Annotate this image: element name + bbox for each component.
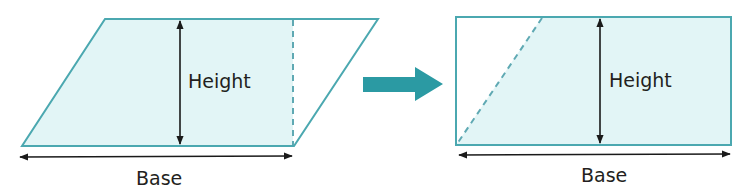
parallelogram-figure: Height Base (20, 19, 378, 189)
base-arrow-right (459, 154, 730, 155)
parallelogram-to-rectangle-diagram: Height Base Height Base (0, 0, 746, 192)
base-label-left: Base (136, 167, 182, 189)
height-label-right: Height (609, 69, 672, 91)
base-arrow-left (20, 156, 292, 157)
rectangle-shaded-region (456, 17, 731, 145)
right-arrow-icon (363, 67, 443, 101)
rectangle-figure: Height Base (456, 17, 731, 186)
base-label-right: Base (581, 164, 627, 186)
height-label-left: Height (188, 70, 251, 92)
